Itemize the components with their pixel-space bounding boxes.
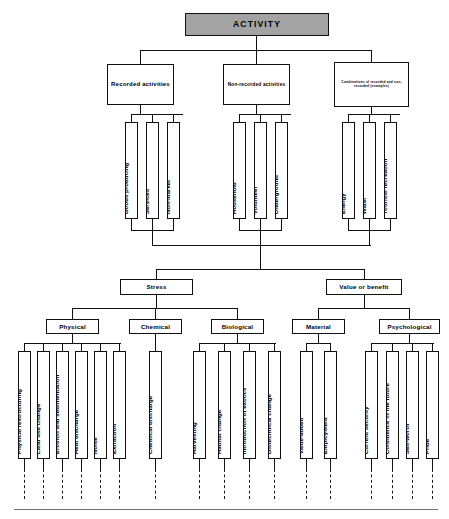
tail-stem-12 xyxy=(306,459,307,469)
node-value-or-benefit: Value or benefit xyxy=(326,279,402,295)
node-household: Household xyxy=(233,122,246,219)
node-physical-label: Physical xyxy=(57,322,88,331)
node-tourism-recreation-label: Tourism recreation xyxy=(384,158,388,214)
tail-stem-3 xyxy=(62,459,63,469)
node-activity-label: ACTIVITY xyxy=(231,19,283,31)
tail-stem-7 xyxy=(155,459,156,469)
tail-dash-10 xyxy=(249,469,250,499)
node-psychological-label: Psychological xyxy=(385,322,433,331)
tail-dash-1 xyxy=(24,469,25,499)
node-underground-label: Underground xyxy=(275,175,279,214)
split-bus xyxy=(156,269,365,270)
collector-c-stem xyxy=(369,230,370,246)
tail-stem-9 xyxy=(224,459,225,469)
tail-stem-15 xyxy=(392,459,393,469)
node-confidence-in-the-future: Confidence in the future xyxy=(386,351,399,459)
node-physical-restructuring: Physical restructuring xyxy=(18,351,31,459)
node-heat-discharge-label: Heat discharge xyxy=(75,410,79,454)
tail-dash-6 xyxy=(119,469,120,499)
connector-chemical-stem xyxy=(155,334,156,352)
tail-dash-15 xyxy=(392,469,393,499)
tail-dash-5 xyxy=(100,469,101,499)
node-current-security: Current security xyxy=(365,351,378,459)
node-combinations-label: Combinations of recorded and non-recorde… xyxy=(335,80,408,89)
node-activity: ACTIVITY xyxy=(185,13,329,36)
tail-stem-8 xyxy=(199,459,200,469)
node-water: Water xyxy=(363,122,376,219)
node-non-recorded-activities-label: Non-recorded activities xyxy=(226,81,288,89)
merge-bus xyxy=(152,245,371,246)
node-noise: Noise xyxy=(94,351,107,459)
tail-dash-16 xyxy=(412,469,413,499)
tail-stem-13 xyxy=(330,459,331,469)
node-goods-producing-label: Goods producing xyxy=(125,162,129,214)
tail-stem-11 xyxy=(274,459,275,469)
node-extraction: Extraction xyxy=(113,351,126,459)
node-pride: Pride xyxy=(426,351,439,459)
node-harvesting: Harvesting xyxy=(193,351,206,459)
tail-stem-16 xyxy=(412,459,413,469)
tail-stem-2 xyxy=(43,459,44,469)
tail-stem-4 xyxy=(81,459,82,469)
tail-dash-12 xyxy=(306,469,307,499)
connector-root-drop-1 xyxy=(140,50,141,64)
tail-dash-7 xyxy=(155,469,156,499)
connector-biological-bus xyxy=(199,343,276,344)
connector-l1c-bus xyxy=(348,114,400,115)
node-current-security-label: Current security xyxy=(365,406,369,454)
node-self-worth: Self-worth xyxy=(406,351,419,459)
connector-value-stem xyxy=(364,295,365,309)
node-water-label: Water xyxy=(363,197,367,214)
node-household-label: Household xyxy=(233,182,237,214)
node-material: Material xyxy=(292,319,345,334)
tail-stem-6 xyxy=(119,459,120,469)
tail-dash-17 xyxy=(432,469,433,499)
node-confidence-in-the-future-label: Confidence in the future xyxy=(386,383,390,454)
node-chemical: Chemical xyxy=(129,319,182,334)
node-recorded-activities: Recorded activities xyxy=(107,64,174,105)
node-underground: Underground xyxy=(275,122,288,219)
node-material-label: Material xyxy=(304,322,333,331)
node-employment: Employment xyxy=(324,351,337,459)
node-extraction-label: Extraction xyxy=(113,424,117,454)
node-services-label: Services xyxy=(146,189,150,214)
node-tourism-recreation: Tourism recreation xyxy=(384,122,397,219)
node-non-market-label: Non-market xyxy=(167,180,171,214)
merge-to-split-stem xyxy=(260,245,261,270)
node-biological: Biological xyxy=(211,319,264,334)
tail-stem-10 xyxy=(249,459,250,469)
tail-stem-1 xyxy=(24,459,25,469)
connector-root-stem xyxy=(256,36,257,51)
node-erosion-and-sedimentation: Erosion and sedimentation xyxy=(56,351,69,459)
node-value-added-label: Value-added xyxy=(300,418,304,454)
node-physical-restructuring-label: Physical restructuring xyxy=(18,389,22,454)
node-recorded-activities-label: Recorded activities xyxy=(109,80,172,89)
tail-dash-11 xyxy=(274,469,275,499)
node-goods-producing: Goods producing xyxy=(125,122,138,219)
node-non-recorded-activities: Non-recorded activities xyxy=(223,64,290,105)
connector-psych-bus xyxy=(371,343,434,344)
node-services: Services xyxy=(146,122,159,219)
tail-dash-2 xyxy=(43,469,44,499)
node-land-use-change: Land use change xyxy=(37,351,50,459)
node-chemical-discharge: Chemical discharge xyxy=(149,351,162,459)
tail-dash-8 xyxy=(199,469,200,499)
tail-stem-14 xyxy=(371,459,372,469)
tail-dash-14 xyxy=(371,469,372,499)
node-habitat-change: Habitat change xyxy=(218,351,231,459)
node-chemical-label: Chemical xyxy=(139,322,172,331)
node-biotechnical-change-label: Biotechnical change xyxy=(268,394,272,454)
connector-value-bus xyxy=(318,308,410,309)
node-value-or-benefit-label: Value or benefit xyxy=(337,282,390,291)
node-noise-label: Noise xyxy=(94,437,98,454)
node-heat-discharge: Heat discharge xyxy=(75,351,88,459)
node-pride-label: Pride xyxy=(426,439,430,454)
node-biotechnical-change: Biotechnical change xyxy=(268,351,281,459)
connector-l1b-bus xyxy=(239,114,291,115)
node-energy: Energy xyxy=(342,122,355,219)
collector-a-stem xyxy=(152,230,153,246)
node-introduction-of-exotics-label: Introduction of exotics xyxy=(243,387,247,454)
node-chemical-discharge-label: Chemical discharge xyxy=(149,396,153,454)
connector-material-bus xyxy=(306,343,331,344)
node-energy-label: Energy xyxy=(342,193,346,214)
